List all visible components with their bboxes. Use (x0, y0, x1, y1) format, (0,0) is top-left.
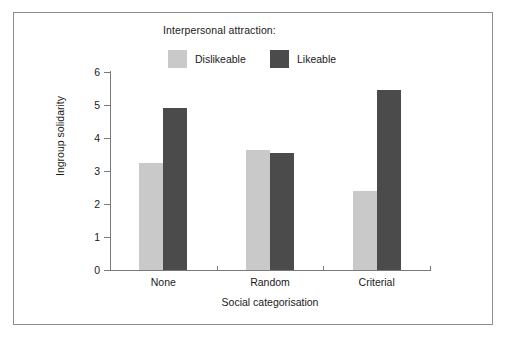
bar-random-dislikeable (246, 150, 270, 270)
y-tick-label-2: 2 (86, 199, 100, 209)
plot-area (110, 72, 430, 270)
x-tick-label-criterial: Criterial (337, 276, 417, 288)
y-tick-label-1: 1 (86, 232, 100, 242)
y-tick-label-0: 0 (86, 265, 100, 275)
y-tick-label-3: 3 (86, 166, 100, 176)
legend-swatch-dislikeable (168, 50, 187, 68)
y-tick-label-4: 4 (86, 133, 100, 143)
bar-none-likeable (163, 108, 187, 270)
y-tick-label-5: 5 (86, 100, 100, 110)
legend-label-likeable: Likeable (297, 53, 336, 65)
legend-swatch-likeable (270, 50, 289, 68)
y-axis-title: Ingroup solidarity (54, 71, 66, 201)
bar-random-likeable (270, 153, 294, 270)
x-tick-label-random: Random (230, 276, 310, 288)
x-tick-label-none: None (123, 276, 203, 288)
bar-criterial-dislikeable (353, 191, 377, 270)
bar-none-dislikeable (139, 163, 163, 270)
chart-figure: Interpersonal attraction: Dislikeable Li… (0, 0, 506, 339)
y-tick-label-6: 6 (86, 67, 100, 77)
bar-criterial-likeable (377, 90, 401, 270)
legend-title: Interpersonal attraction: (163, 24, 276, 36)
x-axis-line (110, 270, 431, 271)
y-tick-0 (104, 270, 110, 271)
legend-label-dislikeable: Dislikeable (195, 53, 246, 65)
x-axis-title: Social categorisation (110, 296, 430, 308)
x-tick-end (430, 266, 431, 271)
